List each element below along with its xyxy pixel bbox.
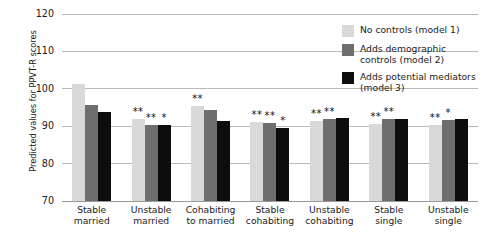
legend-item[interactable]: No controls (model 1) bbox=[342, 24, 478, 37]
bar-group-bars: ***** bbox=[121, 14, 180, 201]
bar[interactable] bbox=[98, 112, 111, 201]
bar[interactable]: ** bbox=[369, 124, 382, 201]
bar[interactable]: ** bbox=[191, 106, 204, 201]
bar[interactable]: ** bbox=[145, 125, 158, 201]
bar-group-bars bbox=[62, 14, 121, 201]
bar[interactable] bbox=[395, 119, 408, 201]
bar[interactable]: ** bbox=[323, 119, 336, 201]
significance-marker: * bbox=[161, 113, 166, 123]
bar[interactable] bbox=[455, 119, 468, 201]
bar-group bbox=[62, 14, 121, 201]
x-axis-label: Stablemarried bbox=[62, 205, 121, 226]
legend-label: Adds demographic controls (model 2) bbox=[360, 43, 478, 65]
bar[interactable] bbox=[336, 118, 349, 201]
y-tick-label-120: 120 bbox=[2, 9, 54, 19]
bar[interactable]: ** bbox=[132, 119, 145, 201]
legend-item[interactable]: Adds potential mediators (model 3) bbox=[342, 71, 478, 93]
legend-label: No controls (model 1) bbox=[360, 24, 460, 35]
bar[interactable]: ** bbox=[429, 125, 442, 201]
legend-item[interactable]: Adds demographic controls (model 2) bbox=[342, 43, 478, 65]
chart-legend: No controls (model 1)Adds demographic co… bbox=[342, 24, 478, 99]
x-axis-label: Unstablesingle bbox=[419, 205, 478, 226]
x-axis-label: Stablesingle bbox=[359, 205, 418, 226]
bar[interactable]: ** bbox=[310, 121, 323, 201]
significance-marker: ** bbox=[311, 109, 322, 119]
x-axis-label: Unstablecohabiting bbox=[300, 205, 359, 226]
bar[interactable] bbox=[72, 84, 85, 201]
significance-marker: ** bbox=[265, 111, 276, 121]
legend-swatch-icon bbox=[342, 25, 354, 37]
bar[interactable]: ** bbox=[250, 122, 263, 201]
significance-marker: ** bbox=[146, 113, 157, 123]
legend-label: Adds potential mediators (model 3) bbox=[360, 71, 478, 93]
significance-marker: ** bbox=[324, 107, 335, 117]
significance-marker: ** bbox=[252, 110, 263, 120]
bar[interactable]: ** bbox=[382, 119, 395, 201]
y-tick-label-70: 70 bbox=[2, 196, 54, 206]
bar-group: ** bbox=[181, 14, 240, 201]
legend-swatch-icon bbox=[342, 72, 354, 84]
significance-marker: ** bbox=[192, 94, 203, 104]
bar-chart: Predicted values for PPVT-R scores 70809… bbox=[0, 0, 482, 251]
significance-marker: * bbox=[280, 116, 285, 126]
y-tick-label-90: 90 bbox=[2, 121, 54, 131]
bar[interactable] bbox=[204, 110, 217, 201]
significance-marker: ** bbox=[133, 107, 144, 117]
significance-marker: ** bbox=[383, 107, 394, 117]
bar[interactable]: * bbox=[158, 125, 171, 201]
x-axis-label: Unstablemarried bbox=[121, 205, 180, 226]
legend-swatch-icon bbox=[342, 44, 354, 56]
bar[interactable] bbox=[85, 105, 98, 201]
y-tick-label-110: 110 bbox=[2, 46, 54, 56]
x-axis-label: Stablecohabiting bbox=[240, 205, 299, 226]
bar-group-bars: ***** bbox=[240, 14, 299, 201]
bar[interactable]: ** bbox=[263, 123, 276, 201]
bar-group-bars: ** bbox=[181, 14, 240, 201]
bar[interactable]: * bbox=[442, 120, 455, 201]
y-tick-label-100: 100 bbox=[2, 84, 54, 94]
x-axis-label: Cohabitingto married bbox=[181, 205, 240, 226]
significance-marker: * bbox=[446, 108, 451, 118]
y-tick-label-80: 80 bbox=[2, 159, 54, 169]
significance-marker: ** bbox=[430, 113, 441, 123]
bar[interactable]: * bbox=[276, 128, 289, 201]
bar-group: ***** bbox=[121, 14, 180, 201]
bar-group: ***** bbox=[240, 14, 299, 201]
bar[interactable] bbox=[217, 121, 230, 201]
significance-marker: ** bbox=[370, 112, 381, 122]
